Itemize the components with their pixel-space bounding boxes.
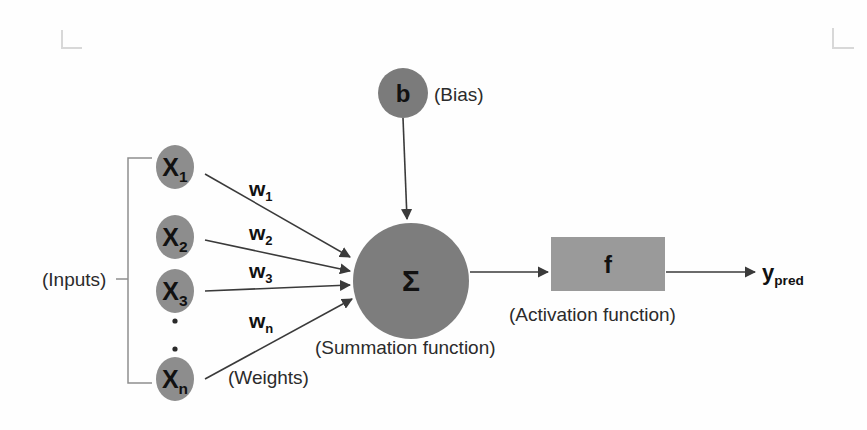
input-node-x2[interactable]: X2 [156, 215, 194, 259]
weight-label-w1: w1 [248, 177, 273, 204]
weight-label-wn: wn [248, 309, 273, 336]
connection-bias [403, 118, 407, 219]
crop-mark-top-left [62, 30, 82, 48]
input-node-x3[interactable]: X3 [156, 269, 194, 313]
bias-caption: (Bias) [434, 84, 484, 105]
weight-label-w2: w2 [248, 221, 273, 248]
activation-caption: (Activation function) [509, 304, 676, 325]
input-node-x1[interactable]: X1 [156, 145, 194, 189]
weights-group-label: (Weights) [228, 367, 309, 388]
connection-x3 [205, 285, 350, 291]
diagram-canvas: (Inputs) X1 X2 X3 Xn w1 w2 [0, 0, 867, 430]
crop-mark-top-right [833, 28, 854, 48]
bias-node-label: b [396, 80, 411, 107]
weight-label-w3: w3 [248, 259, 273, 286]
summation-caption: (Summation function) [315, 337, 496, 358]
neural-neuron-diagram: (Inputs) X1 X2 X3 Xn w1 w2 [0, 0, 867, 430]
inputs-bracket [116, 158, 152, 383]
output-label: ypred [762, 260, 804, 288]
activation-box[interactable]: f [551, 237, 665, 291]
summation-node-label: Σ [402, 264, 420, 297]
bias-node[interactable]: b [378, 68, 428, 118]
ellipsis-dot-1 [172, 318, 177, 323]
ellipsis-dot-2 [172, 346, 177, 351]
input-node-xn[interactable]: Xn [156, 357, 194, 401]
summation-node[interactable]: Σ [353, 223, 469, 339]
activation-box-label: f [604, 251, 613, 278]
inputs-group-label: (Inputs) [42, 269, 106, 290]
